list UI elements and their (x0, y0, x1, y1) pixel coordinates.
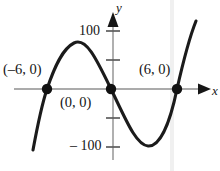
y-axis-label: y (116, 1, 122, 14)
x-axis-arrowhead (198, 84, 211, 95)
point-label-negative-6: (–6, 0) (3, 62, 42, 77)
root-point-origin (106, 84, 116, 94)
graph-canvas (0, 0, 220, 171)
root-point-negative-6 (42, 84, 52, 94)
point-label-origin: (0, 0) (60, 95, 91, 110)
root-point-positive-6 (172, 84, 182, 94)
cubic-function-graph-figure: (–6, 0) (0, 0) (6, 0) 100 – 100 y x (0, 0, 220, 171)
y-tick-label-100: 100 (79, 24, 100, 38)
y-tick-label-negative-100: – 100 (70, 139, 102, 153)
point-label-positive-6: (6, 0) (139, 62, 170, 77)
x-axis-label: x (212, 84, 218, 97)
